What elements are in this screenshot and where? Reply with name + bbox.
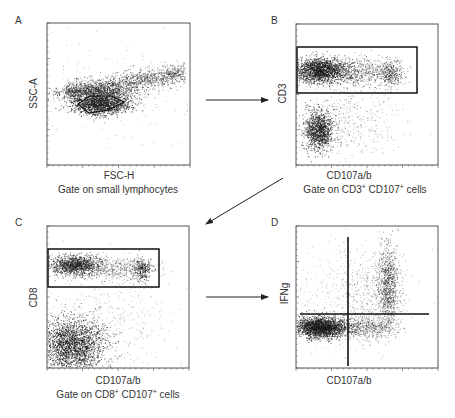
caption-text: Gate on CD8 <box>56 389 114 400</box>
panel-b-plot <box>296 24 438 168</box>
panel-c-x-label: CD107a/b <box>38 375 198 386</box>
panel-d-plot <box>296 226 438 371</box>
panel-c-caption: Gate on CD8+ CD107+ cells <box>18 389 218 400</box>
figure-graphics <box>0 0 455 418</box>
panel-a-letter: A <box>15 15 22 26</box>
panel-b-caption: Gate on CD3+ CD107+ cells <box>265 184 455 195</box>
panel-c-ticks <box>47 226 189 371</box>
panel-b-scatter <box>297 50 431 162</box>
panel-b-letter: B <box>271 15 278 26</box>
panel-a-scatter <box>48 27 188 148</box>
caption-text: cells <box>157 389 180 400</box>
caption-text: Gate on CD3 <box>303 184 361 195</box>
panel-d-y-label: IFNg <box>279 264 290 324</box>
panel-a-caption: Gate on small lymphocytes <box>18 184 218 195</box>
panel-a-x-label: FSC-H <box>39 170 199 181</box>
panel-a-y-label: SSC-A <box>28 64 39 124</box>
panel-c-plot <box>47 226 189 371</box>
panel-d-scatter <box>297 229 435 365</box>
caption-text: CD107 <box>366 184 400 195</box>
panel-d-ticks <box>296 226 438 371</box>
panel-b-y-label: CD3 <box>277 64 288 124</box>
panel-d-x-label: CD107a/b <box>269 375 429 386</box>
panel-a-plot <box>47 23 190 168</box>
panel-b-frame <box>296 24 438 165</box>
caption-text: cells <box>404 184 427 195</box>
panel-b-x-label: CD107a/b <box>269 170 429 181</box>
panel-c-letter: C <box>15 217 22 228</box>
panel-a-ticks <box>47 23 190 168</box>
panel-d-letter: D <box>271 217 278 228</box>
panel-c-scatter <box>48 241 187 368</box>
caption-text: CD107 <box>119 389 153 400</box>
panel-c-y-label: CD8 <box>28 268 39 328</box>
